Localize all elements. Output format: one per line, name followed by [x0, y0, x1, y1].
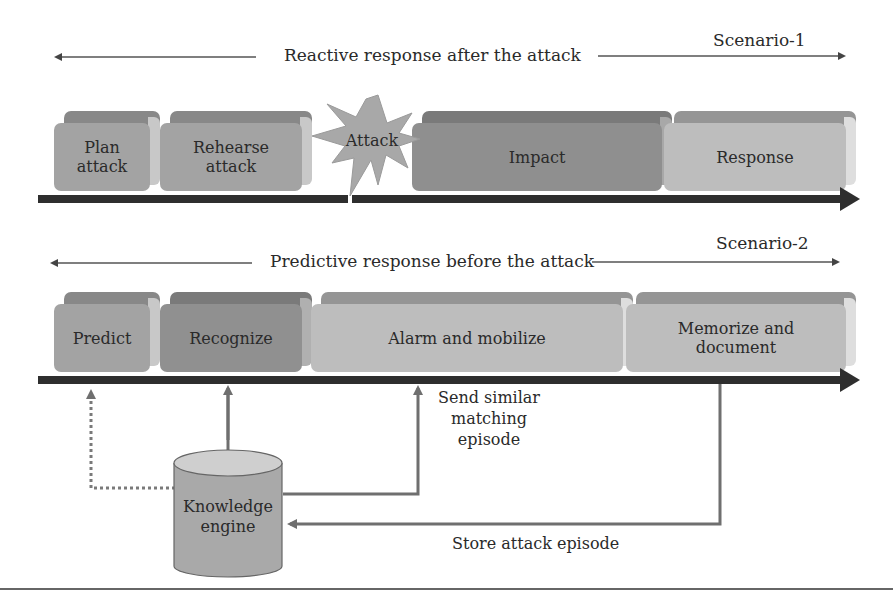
- send-similar-label: Send similar matching episode: [434, 387, 544, 450]
- timeline-1-arrowhead-icon: [840, 187, 860, 211]
- timeline-2-arrowhead-icon: [840, 368, 860, 392]
- predict-feedback-dotted-arrow: [91, 392, 175, 488]
- send-similar-arrow: [283, 388, 418, 494]
- diagram-connectors: [0, 0, 893, 591]
- knowledge-engine-label: Knowledge engine: [174, 497, 282, 537]
- store-attack-label: Store attack episode: [452, 534, 619, 554]
